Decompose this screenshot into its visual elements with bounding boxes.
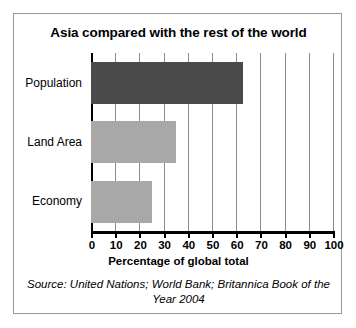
category-label-population: Population	[25, 76, 82, 90]
x-tick-20	[139, 231, 141, 238]
source-note: Source: United Nations; World Bank; Brit…	[22, 277, 335, 307]
x-tick-label-50: 50	[207, 239, 220, 251]
x-tick-label-80: 80	[279, 239, 292, 251]
category-label-economy: Economy	[32, 194, 82, 208]
bar-economy	[91, 181, 152, 223]
bar-row: Population	[91, 53, 333, 112]
x-tick-label-30: 30	[158, 239, 171, 251]
bar-row: Land Area	[91, 112, 333, 171]
chart-figure: Asia compared with the rest of the world…	[13, 13, 342, 314]
x-tick-40	[188, 231, 190, 238]
x-tick-80	[285, 231, 287, 238]
x-tick-label-100: 100	[324, 239, 343, 251]
x-tick-70	[260, 231, 262, 238]
x-tick-50	[212, 231, 214, 238]
x-tick-0	[91, 231, 93, 238]
plot-area: PopulationLand AreaEconomy	[91, 53, 333, 231]
x-axis-title: Percentage of global total	[14, 255, 343, 267]
x-tick-label-70: 70	[255, 239, 268, 251]
x-tick-30	[164, 231, 166, 238]
x-tick-label-40: 40	[182, 239, 195, 251]
x-tick-label-10: 10	[110, 239, 123, 251]
x-tick-label-90: 90	[303, 239, 316, 251]
bar-land-area	[91, 121, 176, 163]
x-tick-100	[333, 231, 335, 238]
x-tick-60	[236, 231, 238, 238]
category-label-land-area: Land Area	[27, 135, 82, 149]
x-tick-label-60: 60	[231, 239, 244, 251]
bar-row: Economy	[91, 172, 333, 231]
x-tick-90	[309, 231, 311, 238]
chart-title: Asia compared with the rest of the world	[14, 25, 343, 40]
x-tick-10	[115, 231, 117, 238]
x-tick-label-20: 20	[134, 239, 147, 251]
gridline-100	[333, 53, 334, 231]
bar-population	[91, 62, 243, 104]
x-tick-label-0: 0	[89, 239, 95, 251]
